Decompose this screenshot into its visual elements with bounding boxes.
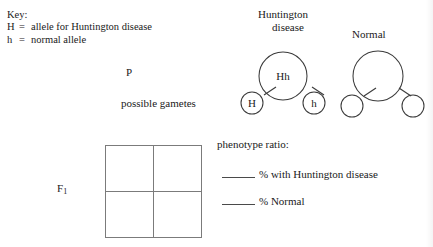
worksheet-page: Key: H=allele for Huntington disease h=n…: [0, 0, 433, 247]
gamete-connector-p2-right: [399, 88, 411, 96]
phenotype-ratio-text-huntington: % with Huntington disease: [259, 168, 378, 180]
phenotype-ratio-line-normal: % Normal: [222, 195, 305, 207]
phenotype-ratio-blank-huntington[interactable]: [222, 177, 255, 178]
gamete-allele-p1-right: h: [311, 97, 317, 109]
gamete-allele-p1-left: H: [248, 97, 256, 109]
key-meaning-H: allele for Huntington disease: [31, 21, 152, 32]
key-symbol-h: h: [7, 34, 19, 46]
key-symbol-H: H: [7, 21, 19, 33]
gamete-circle-p2-left: [341, 95, 363, 117]
gamete-circle-p2-right: [402, 95, 424, 117]
parental-generation-label: P: [126, 66, 132, 79]
phenotype-ratio-title: phenotype ratio:: [217, 138, 289, 151]
key-block: Key: H=allele for Huntington disease h=n…: [7, 9, 152, 46]
gamete-connector-p2-left: [364, 88, 376, 96]
gamete-connector-p1-left: [264, 87, 276, 95]
punnett-square[interactable]: [105, 145, 202, 238]
parent-cross-diagram: Hh H h: [232, 44, 433, 124]
key-title: Key:: [7, 9, 152, 21]
phenotype-ratio-text-normal: % Normal: [259, 195, 305, 207]
key-equals-H: =: [19, 21, 31, 33]
parent-genotype-huntington: Hh: [276, 70, 290, 82]
punnett-cell-top-right[interactable]: [154, 146, 202, 192]
phenotype-ratio-line-huntington: % with Huntington disease: [222, 168, 378, 180]
punnett-cell-bottom-left[interactable]: [106, 192, 154, 238]
key-entry-H: H=allele for Huntington disease: [7, 21, 152, 33]
parent-heading-huntington-line2: disease: [250, 21, 316, 34]
parent-heading-normal: Normal: [352, 28, 386, 41]
parent-heading-huntington: Huntington disease: [250, 8, 316, 34]
parent-heading-huntington-line1: Huntington: [250, 8, 316, 21]
parent-circle-normal: [353, 51, 403, 101]
punnett-cell-bottom-right[interactable]: [154, 192, 202, 238]
key-entry-h: h=normal allele: [7, 34, 152, 46]
possible-gametes-label: possible gametes: [121, 97, 196, 110]
f1-subscript: 1: [63, 187, 67, 196]
f1-generation-label: F1: [57, 182, 67, 195]
gamete-connector-p1-right: [312, 87, 324, 95]
phenotype-ratio-blank-normal[interactable]: [222, 204, 255, 205]
punnett-cell-top-left[interactable]: [106, 146, 154, 192]
key-meaning-h: normal allele: [31, 34, 86, 45]
key-equals-h: =: [19, 34, 31, 46]
